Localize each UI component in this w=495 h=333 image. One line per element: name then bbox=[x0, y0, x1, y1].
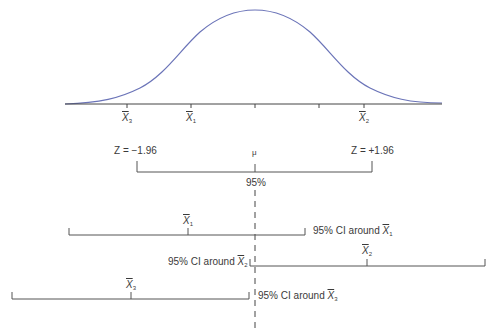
ci3-text: 95% CI around X3 bbox=[258, 291, 338, 304]
axis-ticks bbox=[127, 104, 364, 108]
ci-bracket-2 bbox=[250, 259, 485, 266]
normal-curve bbox=[65, 10, 442, 104]
mu-label: μ bbox=[252, 148, 257, 158]
ci-bracket-1 bbox=[69, 228, 305, 235]
ci3-mean-label: X3 bbox=[126, 280, 136, 293]
axis-label-x3: X3 bbox=[122, 113, 132, 126]
axis-label-x2: X2 bbox=[359, 113, 369, 126]
z-left-label: Z = −1.96 bbox=[114, 146, 157, 156]
ci-bracket-3 bbox=[12, 292, 249, 299]
z-right-label: Z = +1.96 bbox=[351, 146, 394, 156]
ninety-five-percent-label: 95% bbox=[246, 178, 266, 188]
ci2-mean-label: X2 bbox=[362, 246, 372, 259]
diagram-graphics bbox=[0, 0, 495, 333]
ninety-five-bracket bbox=[137, 161, 372, 172]
ci2-text: 95% CI around X2 bbox=[168, 257, 248, 270]
ci1-mean-label: X1 bbox=[183, 216, 193, 229]
ci1-text: 95% CI around X1 bbox=[313, 226, 393, 239]
axis-label-x1: X1 bbox=[186, 113, 196, 126]
